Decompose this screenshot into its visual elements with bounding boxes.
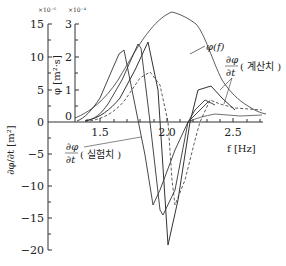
svg-text:( 계산치 ): ( 계산치 ) xyxy=(240,61,281,72)
x-tick: 1.5 xyxy=(91,126,109,139)
calc-curve-a xyxy=(85,42,235,245)
y-axis-label: ∂φ/∂t [m²] xyxy=(5,125,16,174)
y2-tick: 1 xyxy=(65,84,72,97)
y2-multiplier: ×10⁻⁴ xyxy=(68,6,87,13)
exp-annotation: ∂φ ∂t ( 실험치 ) xyxy=(65,137,141,165)
svg-text:∂φ: ∂φ xyxy=(66,141,78,152)
calc-tail xyxy=(188,114,262,122)
y2-tick: 0 xyxy=(65,110,72,123)
y-tick: 10 xyxy=(30,51,44,64)
y-multiplier: ×10⁻⁶ xyxy=(38,6,57,13)
y-tick: −20 xyxy=(21,244,44,257)
svg-text:∂t: ∂t xyxy=(226,67,236,78)
y2-tick: 3 xyxy=(65,18,72,31)
phi-f-label: φ(f) xyxy=(206,41,225,52)
y-tick: 5 xyxy=(37,84,44,97)
y2-tick: 2 xyxy=(65,51,72,64)
calc-annotation: ∂φ ∂t ( 계산치 ) xyxy=(220,54,281,104)
svg-text:∂t: ∂t xyxy=(66,154,76,165)
y-tick: −5 xyxy=(28,148,44,161)
y-tick: 0 xyxy=(37,116,44,129)
chart: ×10⁻⁶ ×10⁻⁴ 15 10 5 0 −5 −10 −15 −20 ∂φ/… xyxy=(0,0,286,266)
svg-text:( 실험치 ): ( 실험치 ) xyxy=(80,149,121,160)
x-tick: 2.5 xyxy=(224,126,242,139)
y2-axis-label: φ [m²·s] xyxy=(51,55,62,95)
phi-leader xyxy=(190,46,205,54)
y-tick: −15 xyxy=(21,212,44,225)
y2-axis xyxy=(75,24,79,122)
svg-text:∂φ: ∂φ xyxy=(226,54,238,65)
x-axis xyxy=(48,118,263,122)
phi-curve xyxy=(75,12,266,118)
y-tick: −10 xyxy=(21,180,44,193)
x-axis-label: f [Hz] xyxy=(227,143,256,154)
y-tick: 15 xyxy=(30,18,44,31)
